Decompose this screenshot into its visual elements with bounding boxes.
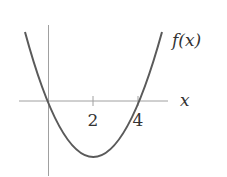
function-curve — [25, 32, 162, 157]
function-label: f(x) — [170, 30, 201, 50]
function-plot: 2 4 x f(x) — [0, 0, 227, 177]
tick-label-2: 2 — [88, 110, 99, 130]
x-axis-label: x — [180, 90, 190, 110]
tick-label-4: 4 — [133, 110, 144, 130]
